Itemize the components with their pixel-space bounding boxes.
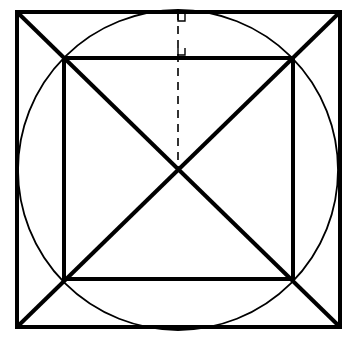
right-angle-marker xyxy=(178,48,185,55)
geometry-diagram xyxy=(0,0,355,348)
right-angle-marker xyxy=(178,14,185,21)
